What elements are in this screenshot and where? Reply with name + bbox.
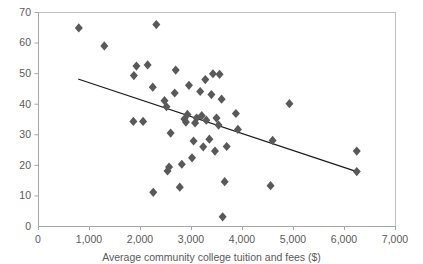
x-axis-title: Average community college tuition and fe… [0,251,423,264]
y-tick-label: 30 [19,128,31,140]
y-tick-label: 60 [19,36,31,48]
x-tick-label: 7,000 [382,233,408,245]
y-tick-label: 40 [19,98,31,110]
x-tick-label: 6,000 [331,233,357,245]
x-tick-label: 1,000 [76,233,102,245]
y-tick-label: 10 [19,189,31,201]
x-tick-label: 5,000 [280,233,306,245]
scatter-chart: 01020304050607001,0002,0003,0004,0005,00… [0,0,423,264]
y-tick-label: 50 [19,67,31,79]
y-tick-label: 70 [19,6,31,18]
y-tick-label: 0 [25,220,31,232]
x-tick-label: 3,000 [178,233,204,245]
y-tick-label: 20 [19,159,31,171]
x-tick-label: 2,000 [127,233,153,245]
x-tick-label: 4,000 [229,233,255,245]
chart-canvas: 01020304050607001,0002,0003,0004,0005,00… [0,0,423,264]
x-tick-label: 0 [35,233,41,245]
